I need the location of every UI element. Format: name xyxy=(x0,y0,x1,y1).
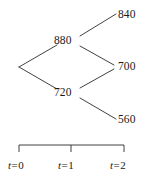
edge-root-to-up xyxy=(19,45,57,67)
edge-down-to-down-down xyxy=(80,98,116,119)
node-label-middle: 700 xyxy=(118,61,136,73)
node-label-up: 880 xyxy=(54,35,72,47)
edge-down-to-middle xyxy=(80,69,114,88)
node-label-down-down: 560 xyxy=(118,114,136,126)
lattice-lines xyxy=(0,0,146,177)
edge-up-to-up-up xyxy=(80,14,116,36)
timeline-bracket xyxy=(19,145,124,152)
edge-up-to-middle xyxy=(80,46,114,65)
axis-tick-label-t2: t=2 xyxy=(110,160,126,171)
axis-tick-val-2: 2 xyxy=(120,159,126,171)
axis-tick-val-1: 1 xyxy=(68,159,74,171)
axis-tick-label-t0: t=0 xyxy=(8,160,24,171)
axis-tick-val-0: 0 xyxy=(18,159,24,171)
node-label-up-up: 840 xyxy=(118,9,136,21)
node-label-down: 720 xyxy=(54,87,72,99)
edge-root-to-down xyxy=(19,67,57,89)
binomial-tree-figure: 880 720 840 700 560 t=0 t=1 t=2 xyxy=(0,0,146,177)
axis-tick-label-t1: t=1 xyxy=(58,160,74,171)
